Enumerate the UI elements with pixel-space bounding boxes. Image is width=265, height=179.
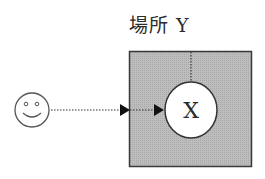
arrowhead-outer bbox=[120, 104, 130, 116]
diagram: 場所 Y X bbox=[0, 0, 265, 179]
smiley-face-icon bbox=[15, 93, 49, 127]
diagram-canvas: X bbox=[0, 0, 265, 179]
node-x-label: X bbox=[183, 98, 199, 123]
